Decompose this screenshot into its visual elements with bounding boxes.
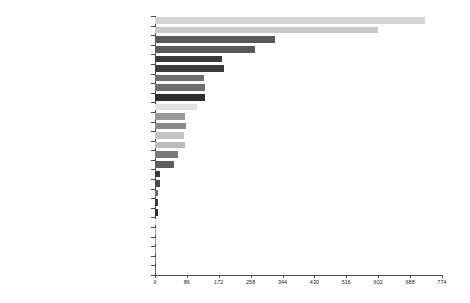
bar — [155, 190, 158, 197]
bar — [155, 84, 205, 91]
y-tick — [151, 35, 155, 36]
y-tick — [151, 54, 155, 55]
x-tick-label: 688 — [396, 279, 424, 285]
y-tick — [151, 265, 155, 266]
x-tick-label: 602 — [364, 279, 392, 285]
y-tick — [151, 256, 155, 257]
y-tick — [151, 102, 155, 103]
x-tick-label: 86 — [173, 279, 201, 285]
bar-row: MARKETING ENTRY MODE - EXPORT — [155, 26, 442, 36]
bar-row: MACROMARKETING — [155, 265, 442, 275]
bar — [155, 17, 425, 24]
bar-row: MARKETING ENTRY MODE - STRATEGIC ALLIANC… — [155, 54, 442, 64]
bar-row: SEGMENTATION — [155, 74, 442, 84]
y-tick — [151, 112, 155, 113]
y-tick — [151, 45, 155, 46]
x-tick-mark — [155, 275, 156, 278]
y-tick — [151, 83, 155, 84]
x-axis-line — [155, 275, 443, 276]
y-tick — [151, 93, 155, 94]
bar — [155, 123, 186, 130]
y-tick — [151, 237, 155, 238]
bar-row: LOCAL ADVERTISING — [155, 237, 442, 247]
bar-row: COUNTERFEIT — [155, 198, 442, 208]
x-tick-label: 344 — [269, 279, 297, 285]
bar — [155, 65, 224, 72]
bar — [155, 151, 178, 158]
bar-row: MARKETING ENTRY MODE - LICENSING — [155, 150, 442, 160]
bar — [155, 132, 184, 139]
x-tick-mark — [314, 275, 315, 278]
x-tick-label: 774 — [428, 279, 456, 285]
bar-row: INTERNATIONAL MARKETING — [155, 35, 442, 45]
bar-row: FOREIGN BRANDING — [155, 208, 442, 218]
x-tick-mark — [283, 275, 284, 278]
y-tick — [151, 122, 155, 123]
bar-row: EXPORT MARKETING — [155, 102, 442, 112]
bar-row: MARKETING ENTRY MODE - FDI — [155, 16, 442, 26]
y-tick — [151, 246, 155, 247]
plot-area: MARKETING ENTRY MODE - FDIMARKETING ENTR… — [155, 16, 442, 275]
y-tick — [151, 179, 155, 180]
y-tick — [151, 208, 155, 209]
bar-row: MARKETING ENTRY MODE - M&A — [155, 83, 442, 93]
bar-chart: MARKETING ENTRY MODE - FDIMARKETING ENTR… — [0, 0, 470, 303]
bar — [155, 180, 160, 187]
bar — [155, 104, 197, 111]
bar — [155, 161, 174, 168]
x-tick-mark — [346, 275, 347, 278]
bar-row: LICENSING MARKETING — [155, 256, 442, 266]
y-tick — [151, 16, 155, 17]
x-tick-label: 0 — [141, 279, 169, 285]
bar — [155, 75, 204, 82]
bar-row: NATIONAL BRANDING — [155, 160, 442, 170]
bar — [155, 94, 205, 101]
bar — [155, 46, 255, 53]
y-tick — [151, 227, 155, 228]
bar — [155, 56, 222, 63]
x-tick-label: 516 — [332, 279, 360, 285]
x-tick-mark — [442, 275, 443, 278]
bar — [155, 209, 158, 216]
y-tick — [151, 64, 155, 65]
bar-row: GLOBAL PRICING — [155, 179, 442, 189]
bar — [155, 27, 378, 34]
bar-row: GRAY MARKET — [155, 189, 442, 199]
bar-row: PRIVATE BRANDING — [155, 169, 442, 179]
x-tick-label: 258 — [237, 279, 265, 285]
y-tick — [151, 198, 155, 199]
y-tick — [151, 189, 155, 190]
bar — [155, 219, 156, 226]
bar — [155, 267, 156, 274]
y-tick — [151, 160, 155, 161]
bar — [155, 247, 156, 254]
bar-row: GLOBAL ADVERTISING — [155, 131, 442, 141]
x-tick-mark — [187, 275, 188, 278]
bar — [155, 228, 156, 235]
x-tick-mark — [410, 275, 411, 278]
bar — [155, 199, 158, 206]
bar — [155, 113, 185, 120]
x-tick-label: 430 — [300, 279, 328, 285]
bar-row: LUXURY BRANDING — [155, 227, 442, 237]
y-tick — [151, 217, 155, 218]
bar-row: REGIONAL BRANDING — [155, 217, 442, 227]
bar-row: MARKETING ENTRY MODE - CONTRACTS — [155, 141, 442, 151]
y-tick — [151, 74, 155, 75]
y-tick — [151, 131, 155, 132]
y-tick — [151, 150, 155, 151]
bar — [155, 142, 185, 149]
x-tick-mark — [378, 275, 379, 278]
bar — [155, 36, 275, 43]
y-tick — [151, 141, 155, 142]
bar-row: BRANDING — [155, 45, 442, 55]
bar — [155, 238, 156, 245]
y-tick — [151, 169, 155, 170]
bar-row: GLOBAL BRANDING — [155, 112, 442, 122]
bar-row: MARKETING ENTRY MODE - WOS — [155, 122, 442, 132]
x-tick-mark — [219, 275, 220, 278]
x-tick-label: 172 — [205, 279, 233, 285]
bar-row: MARKETING ENTRY MODE - IJV — [155, 64, 442, 74]
bar — [155, 171, 160, 178]
bar — [155, 257, 156, 264]
